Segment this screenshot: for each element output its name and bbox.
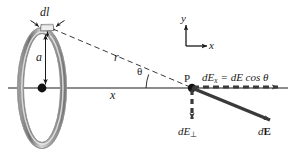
label-dE-perpendicular: dE⊥ <box>178 126 197 139</box>
label-axial-distance-x: x <box>110 89 115 101</box>
label-dE-parallel-lhs: dE <box>202 71 214 83</box>
label-dE-parallel-rhs: = dE cos θ <box>217 71 268 83</box>
label-radius-a: a <box>36 51 42 63</box>
ring-center-point <box>38 84 47 93</box>
label-distance-r: r <box>114 51 119 63</box>
dE-resultant-vector <box>192 88 270 120</box>
physics-diagram-ring-of-charge: dl a r x θ P y x dEx= dE cos θ dE⊥ dE <box>0 0 291 155</box>
label-dE-vector-E: E <box>264 125 271 137</box>
label-dE-perp-subscript: ⊥ <box>190 130 197 139</box>
label-point-p: P <box>184 73 190 84</box>
ring-element-dl <box>41 24 55 31</box>
label-axis-y: y <box>181 13 186 24</box>
distance-line-r <box>53 29 190 87</box>
label-axis-x: x <box>209 40 214 51</box>
label-dE-vector: dE <box>258 126 271 137</box>
label-dE-parallel-equation: dEx= dE cos θ <box>202 72 268 85</box>
label-dl: dl <box>40 6 49 18</box>
label-dE-perp-base: dE <box>178 125 190 137</box>
label-theta: θ <box>137 66 142 77</box>
coordinate-axes-indicator <box>186 25 207 46</box>
theta-angle-arc <box>146 74 149 88</box>
